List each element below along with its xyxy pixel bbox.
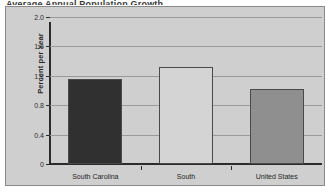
chart-page: Average Annual Population Growth Percent… [0,0,331,193]
category-label: South [141,173,232,181]
y-tick-label: 1.6 [34,43,44,50]
plot-area [50,17,322,164]
gridline [50,17,322,18]
bar-south-carolina [68,79,122,164]
x-tick-mark [141,166,142,170]
y-tick-label: 0 [40,161,44,168]
category-label: South Carolina [50,173,141,181]
category-label: United States [231,173,322,181]
y-axis-title: Percent per Year [36,24,45,104]
x-tick-mark [231,166,232,170]
chart-frame: Percent per Year 00.40.81.21.62.0 South … [5,6,325,186]
y-tick-label: 0.8 [34,102,44,109]
y-tick-label: 1.2 [34,73,44,80]
gridline [50,46,322,47]
bar-united-states [250,89,304,164]
y-tick-label: 0.4 [34,132,44,139]
y-tick-mark [46,164,50,165]
y-tick-label: 2.0 [34,14,44,21]
cropped-title-text: Average Annual Population Growth [6,0,206,5]
bar-south [159,67,213,164]
